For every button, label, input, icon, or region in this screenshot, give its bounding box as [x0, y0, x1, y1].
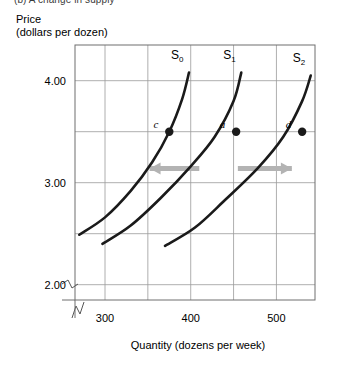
point-label: c [153, 118, 158, 130]
supply-shift-arrows [150, 162, 292, 174]
curve-label-S0: S0 [171, 48, 184, 64]
curve-label-S1: S1 [223, 48, 236, 64]
supply-curve-S0 [79, 73, 189, 235]
y-gridlines [75, 81, 315, 285]
increase-in-supply-arrow [238, 162, 292, 174]
x-gridlines [105, 45, 276, 300]
y-tick-label: 2.00 [45, 279, 66, 291]
supply-curve-labels: S0S1S2 [171, 48, 306, 67]
supply-curve-S1 [102, 73, 241, 244]
plot-frame [75, 45, 315, 300]
point-label: d [286, 118, 292, 130]
x-tick-label: 500 [267, 312, 285, 324]
curve-label-subscript: 1 [231, 55, 236, 64]
equilibrium-point-d: d [286, 118, 307, 136]
frame-rect [75, 45, 315, 300]
point-label: a [220, 118, 226, 130]
curve-label-text: S [171, 48, 179, 62]
supply-curve-S2 [165, 76, 311, 246]
point-marker [165, 128, 173, 136]
plot-area: 2.003.004.00 300400500 S0S1S2 cad [0, 0, 340, 371]
supply-curves [79, 73, 310, 246]
x-axis-break-mark [72, 302, 84, 318]
arrow-head [281, 162, 292, 174]
equilibrium-points: cad [153, 118, 306, 136]
y-tick-label: 4.00 [45, 75, 66, 87]
x-tick-label: 400 [182, 312, 200, 324]
curve-label-S2: S2 [293, 51, 306, 67]
x-tick-labels: 300400500 [96, 312, 286, 324]
curve-label-text: S [293, 51, 301, 65]
y-tick-labels: 2.003.004.00 [45, 75, 66, 291]
equilibrium-point-a: a [220, 118, 241, 136]
y-tick-label: 3.00 [45, 177, 66, 189]
curve-label-subscript: 2 [301, 58, 306, 67]
curve-label-subscript: 0 [179, 55, 184, 64]
point-marker [232, 128, 240, 136]
point-marker [298, 128, 306, 136]
x-tick-label: 300 [96, 312, 114, 324]
curve-label-text: S [223, 48, 231, 62]
supply-curve-figure: (b) A change in supply Price (dollars pe… [0, 0, 340, 371]
